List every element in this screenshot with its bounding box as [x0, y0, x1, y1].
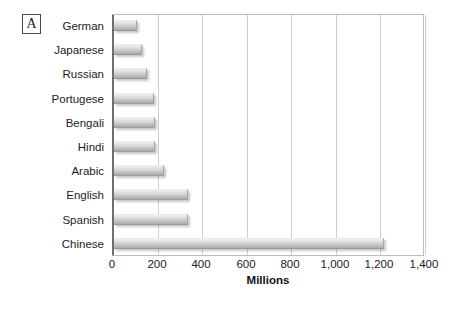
x-tick-label-1000: 1,000: [321, 258, 350, 270]
x-tick-label-1400: 1,400: [410, 258, 439, 270]
bar-portugese: [114, 93, 154, 104]
category-label-bengali: Bengali: [0, 111, 108, 135]
bar-row: [113, 136, 425, 160]
gridline-1400: [425, 15, 426, 255]
bar-row: [113, 88, 425, 112]
x-axis-title: Millions: [112, 274, 424, 286]
bar-chart-figure: A GermanJapaneseRussianPortugeseBengaliH…: [0, 0, 463, 313]
bar-row: [113, 63, 425, 87]
bar-series: [113, 15, 423, 255]
category-label-japanese: Japanese: [0, 38, 108, 62]
bar-hindi: [114, 141, 155, 152]
bar-english: [114, 189, 188, 200]
bar-row: [113, 112, 425, 136]
x-tick-label-800: 800: [280, 258, 299, 270]
bar-row: [113, 39, 425, 63]
x-tick-label-200: 200: [147, 258, 166, 270]
bar-chinese: [114, 238, 384, 249]
category-label-hindi: Hindi: [0, 135, 108, 159]
bar-row: [113, 209, 425, 233]
category-label-spanish: Spanish: [0, 208, 108, 232]
bar-japanese: [114, 44, 142, 55]
category-label-chinese: Chinese: [0, 232, 108, 256]
value-axis-tick-labels: 02004006008001,0001,2001,400: [112, 258, 424, 274]
x-tick-label-1200: 1,200: [365, 258, 394, 270]
x-tick-label-0: 0: [109, 258, 115, 270]
category-label-arabic: Arabic: [0, 159, 108, 183]
bar-row: [113, 184, 425, 208]
category-label-portugese: Portugese: [0, 87, 108, 111]
bar-spanish: [114, 214, 188, 225]
category-label-english: English: [0, 183, 108, 207]
bar-bengali: [114, 117, 155, 128]
bar-russian: [114, 68, 147, 79]
category-label-german: German: [0, 14, 108, 38]
plot-area: [112, 14, 424, 256]
bar-row: [113, 160, 425, 184]
x-tick-label-600: 600: [236, 258, 255, 270]
x-tick-label-400: 400: [191, 258, 210, 270]
bar-german: [114, 20, 137, 31]
bar-row: [113, 233, 425, 257]
category-label-russian: Russian: [0, 62, 108, 86]
bar-arabic: [114, 165, 164, 176]
category-axis-labels: GermanJapaneseRussianPortugeseBengaliHin…: [0, 14, 108, 256]
bar-row: [113, 15, 425, 39]
